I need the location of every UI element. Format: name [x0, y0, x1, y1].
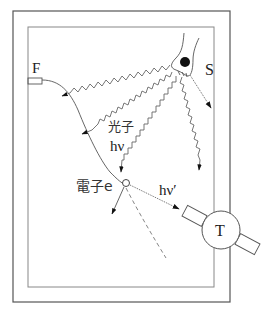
photon-ray-1 [62, 65, 170, 96]
electron-label: 電子e [76, 178, 113, 194]
source-dot [180, 57, 190, 67]
outer-frame [13, 11, 230, 302]
filament-label: F [32, 60, 40, 76]
scattered-photon-label: hν′ [159, 182, 177, 198]
electron-point [123, 180, 130, 187]
recoil-electron-arrow [112, 187, 124, 214]
photon-ray-4 [180, 77, 200, 170]
photon-label: 光子 [108, 119, 134, 134]
photon-energy-label: hν [110, 138, 125, 154]
compton-diagram: F S 光子 hν 電子e hν′ T [0, 0, 271, 315]
source-label: S [205, 61, 214, 78]
source-apparatus [172, 33, 200, 77]
electron-dashed-path [126, 188, 166, 258]
detector-label: T [215, 222, 225, 239]
photon-ray-5 [190, 75, 211, 108]
filament-block [28, 78, 42, 84]
